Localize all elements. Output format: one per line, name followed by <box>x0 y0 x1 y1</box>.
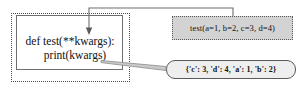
output-dict-box: {'c': 3, 'd': 4, 'a': 1, 'b': 2} <box>166 60 296 79</box>
code-block: def test(**kwargs): print(kwargs) <box>16 34 124 62</box>
function-call-box: test(a=1, b=2, c=3, d=4) <box>172 16 293 40</box>
diagram-canvas: def test(**kwargs): print(kwargs) test(a… <box>0 0 302 90</box>
output-dict-label: {'c': 3, 'd': 4, 'a': 1, 'b': 2} <box>186 65 276 74</box>
code-line-function-definition: def test(**kwargs): <box>16 34 124 48</box>
function-call-label: test(a=1, b=2, c=3, d=4) <box>190 23 275 33</box>
code-line-print-statement: print(kwargs) <box>16 48 124 62</box>
